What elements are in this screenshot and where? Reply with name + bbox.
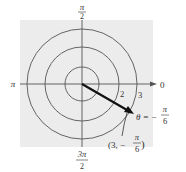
- svg-text:π: π: [163, 104, 168, 114]
- svg-text:6: 6: [135, 144, 139, 154]
- svg-text:3π: 3π: [77, 149, 87, 159]
- svg-text:6: 6: [163, 116, 167, 126]
- point-marker: [128, 110, 132, 114]
- label-zero: 0: [160, 80, 165, 90]
- svg-text:θ = −: θ = −: [136, 112, 157, 122]
- svg-text:2: 2: [80, 162, 84, 171]
- label-pi-over-2: π 2: [78, 2, 86, 21]
- label-3pi-over-2: 3π 2: [76, 149, 88, 171]
- svg-text:(3, −: (3, −: [108, 140, 125, 150]
- ring-label-2: 2: [120, 89, 124, 99]
- polar-axis-arrowhead-icon: [150, 82, 157, 87]
- svg-text:π: π: [80, 2, 85, 12]
- polar-diagram: π 2 π 0 2 3 θ = − π 6 (3, − π 6 ) 3π 2: [0, 0, 186, 172]
- ring-label-3: 3: [138, 90, 142, 100]
- label-pi: π: [11, 79, 16, 89]
- plot-background: [20, 20, 153, 147]
- svg-text:): ): [141, 138, 145, 151]
- svg-text:2: 2: [80, 12, 84, 21]
- svg-text:π: π: [135, 132, 140, 142]
